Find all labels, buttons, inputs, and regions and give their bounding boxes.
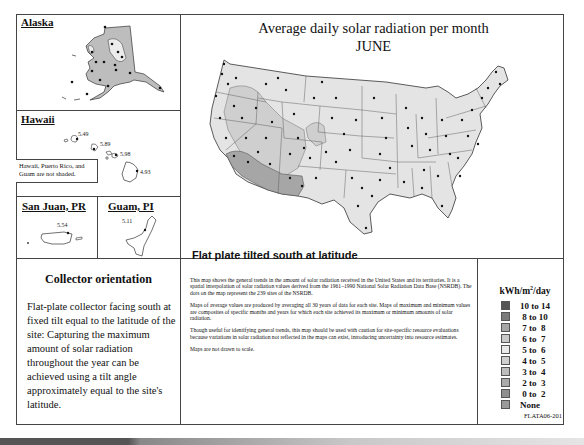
map-description: This map shows the general trends in the… [190, 277, 475, 359]
legend-item: None [493, 399, 563, 410]
legend-swatch [501, 378, 510, 387]
legend-swatch [501, 400, 510, 409]
legend-label: 5 to 6 [520, 345, 546, 355]
legend-swatch [501, 312, 510, 321]
legend: kWh/m2/day 10 to 14 8 to 10 7 to 8 6 to … [493, 285, 563, 410]
divider-alaska-hawaii [16, 110, 181, 111]
legend-item: 6 to 7 [493, 333, 563, 344]
legend-swatch [501, 367, 510, 376]
hawaii-value-big-island: 4.93 [140, 169, 151, 175]
legend-swatch [501, 323, 510, 332]
divider-pr-guam [97, 196, 98, 258]
us-solar-radiation-map [186, 58, 541, 248]
collector-orientation-body: Flat-plate collector facing south at fix… [27, 300, 177, 412]
unshaded-territories-note: Hawaii, Puerto Rico, and Guam are not sh… [16, 159, 98, 183]
san-juan-inset-title: San Juan, PR [22, 200, 86, 212]
legend-label: 4 to 5 [520, 356, 546, 366]
bottom-edge-strip [0, 438, 584, 445]
legend-label: 8 to 10 [520, 312, 548, 322]
legend-item: 3 to 4 [493, 366, 563, 377]
legend-label: 10 to 14 [520, 301, 550, 311]
legend-item: 10 to 14 [493, 300, 563, 311]
legend-item: 4 to 5 [493, 355, 563, 366]
legend-item: 2 to 3 [493, 377, 563, 388]
legend-swatch [501, 334, 510, 343]
legend-label: 0 to 2 [520, 389, 546, 399]
legend-item: 7 to 8 [493, 322, 563, 333]
legend-swatch [501, 356, 510, 365]
legend-label: 6 to 7 [520, 334, 546, 344]
guam-inset-title: Guam, PI [108, 200, 154, 212]
legend-swatch [501, 389, 510, 398]
legend-unit: kWh/m [499, 286, 530, 296]
divider-hawaii-territories [16, 196, 181, 197]
guam-map [122, 214, 162, 258]
legend-title: kWh/m2/day [487, 285, 563, 296]
legend-label: 2 to 3 [520, 378, 546, 388]
legend-item: 5 to 6 [493, 344, 563, 355]
map-caption: Flat plate tilted south at latitude [192, 249, 358, 261]
hawaii-value-maui: 5.98 [120, 151, 131, 157]
legend-label: None [520, 400, 540, 410]
collector-orientation-title: Collector orientation [16, 272, 181, 287]
legend-swatch [501, 345, 510, 354]
divider-left-column [180, 14, 181, 425]
description-paragraph: Though useful for identifying general tr… [190, 327, 475, 340]
description-paragraph: Maps are not drawn to scale. [190, 346, 475, 352]
divider-legend [477, 258, 478, 425]
legend-item: 8 to 10 [493, 311, 563, 322]
alaska-inset-title: Alaska [21, 16, 53, 28]
map-month: JUNE [182, 38, 565, 55]
hawaii-inset-title: Hawaii [21, 113, 55, 125]
figure-code: FLATA06-201 [524, 412, 562, 419]
puerto-rico-map [24, 228, 90, 250]
legend-item: 0 to 2 [493, 388, 563, 399]
hawaii-value-kauai: 5.49 [78, 131, 89, 137]
description-paragraph: Maps of average values are produced by a… [190, 302, 475, 321]
legend-unit-suffix: /day [533, 286, 550, 296]
alaska-map [60, 22, 170, 104]
description-paragraph: This map shows the general trends in the… [190, 277, 475, 296]
legend-label: 3 to 4 [520, 367, 546, 377]
legend-swatch [501, 301, 510, 310]
legend-label: 7 to 8 [520, 323, 546, 333]
hawaii-value-oahu: 5.89 [100, 141, 111, 147]
map-title: Average daily solar radiation per month [182, 20, 565, 37]
